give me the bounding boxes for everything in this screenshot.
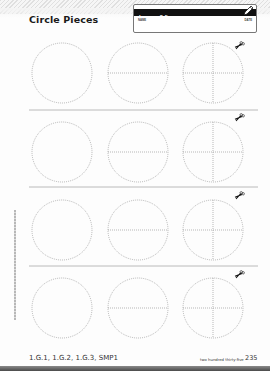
scissors-icon — [235, 271, 244, 278]
row-1 — [32, 42, 244, 103]
footer-page-number: 235 — [245, 354, 257, 362]
whole-circle[interactable] — [32, 43, 92, 103]
footer-page-words: two hundred thirty-five — [200, 357, 244, 362]
row-3 — [32, 192, 244, 260]
scissors-icon — [235, 192, 244, 199]
whole-circle[interactable] — [32, 278, 92, 338]
bottom-band — [0, 366, 270, 371]
row-4 — [32, 271, 244, 338]
row-2 — [32, 114, 244, 182]
scissors-icon — [235, 42, 244, 49]
scissors-icon — [235, 114, 244, 121]
whole-circle[interactable] — [32, 122, 92, 182]
circle-worksheet — [0, 0, 270, 371]
whole-circle[interactable] — [32, 200, 92, 260]
footer-standards: 1.G.1, 1.G.2, 1.G.3, SMP1 — [29, 354, 118, 362]
